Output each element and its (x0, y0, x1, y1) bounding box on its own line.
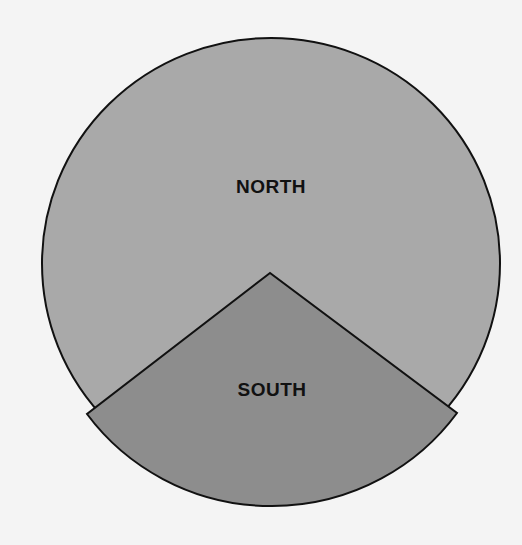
north-label: NORTH (236, 176, 306, 197)
south-label: SOUTH (238, 379, 307, 400)
pie-chart: NORTH SOUTH (0, 0, 522, 545)
